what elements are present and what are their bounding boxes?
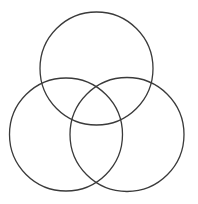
top-circle xyxy=(40,12,153,125)
bottom-right-circle xyxy=(70,78,184,192)
venn-diagram xyxy=(0,0,198,204)
bottom-left-circle xyxy=(10,78,123,191)
